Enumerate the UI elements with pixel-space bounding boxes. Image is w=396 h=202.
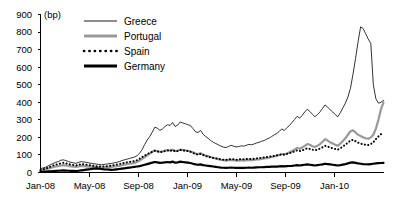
legend-label-spain: Spain (124, 46, 150, 57)
x-tick-label: Jan-08 (26, 180, 55, 191)
y-tick-label: 700 (16, 44, 32, 55)
x-axis-tick-marks (90, 173, 335, 177)
y-tick-label: 100 (16, 149, 32, 160)
y-tick-label: 900 (16, 9, 32, 20)
legend-label-portugal: Portugal (124, 31, 161, 42)
chart-legend: GreecePortugalSpainGermany (84, 16, 165, 72)
x-tick-label: May-09 (221, 180, 253, 191)
legend-label-germany: Germany (124, 61, 165, 72)
legend-label-greece: Greece (124, 16, 157, 27)
chart-canvas: 0100200300400500600700800900 Jan-08May-0… (0, 0, 396, 202)
y-tick-label: 200 (16, 132, 32, 143)
y-tick-label: 500 (16, 79, 32, 90)
series-line-portugal (41, 102, 384, 170)
x-tick-label: Jan-10 (320, 180, 349, 191)
y-tick-label: 600 (16, 62, 32, 73)
x-tick-label: Sep-09 (270, 180, 301, 191)
x-axis-tick-labels: Jan-08May-08Sep-08Jan-09May-09Sep-09Jan-… (26, 180, 349, 191)
x-tick-label: Jan-09 (173, 180, 202, 191)
y-tick-label: 800 (16, 26, 32, 37)
y-axis-tick-labels: 0100200300400500600700800900 (16, 9, 32, 178)
y-tick-label: 300 (16, 114, 32, 125)
x-tick-label: May-08 (74, 180, 106, 191)
bond-spread-chart: 0100200300400500600700800900 Jan-08May-0… (0, 0, 396, 202)
y-tick-label: 0 (27, 167, 32, 178)
unit-label: (bp) (44, 9, 61, 20)
series-plot-lines (41, 27, 384, 172)
x-tick-label: Sep-08 (123, 180, 154, 191)
y-tick-label: 400 (16, 97, 32, 108)
